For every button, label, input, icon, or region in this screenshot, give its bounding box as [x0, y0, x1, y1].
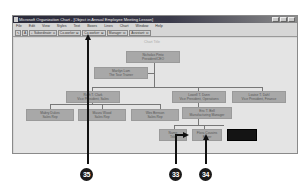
callout-badge-35: 35	[80, 168, 93, 181]
org-box-selected-empty[interactable]	[227, 129, 257, 141]
org-box-assistant[interactable]: Marilyn LamThe Tour Trainer	[94, 67, 148, 79]
org-box-vp-finance[interactable]: Louise T. DahlVice President, Finance	[232, 91, 286, 103]
text-a-icon: A	[24, 31, 26, 35]
app-icon[interactable]	[14, 17, 18, 22]
close-button[interactable]	[288, 17, 295, 22]
subordinate-button[interactable]: ⌕ Subordinate: ⊡	[29, 30, 57, 36]
callout-arrow-35	[87, 38, 89, 164]
select-tool-button[interactable]: ↖	[15, 30, 21, 36]
chart-canvas[interactable]: Chart Title Nicholas PintoPresident/CEO …	[14, 38, 297, 153]
callout-badge-33: 33	[169, 168, 182, 181]
arrowhead-icon	[183, 132, 189, 138]
callout-badge-34: 34	[199, 168, 212, 181]
toolbar: ↖ A ⌕ Subordinate: ⊡ Co-worker: ⊟ Co-wor…	[13, 29, 297, 37]
coworker-left-button[interactable]: Co-worker: ⊟	[58, 30, 81, 36]
manager-button[interactable]: Manager: ⊡	[107, 30, 128, 36]
arrowhead-icon	[203, 134, 209, 140]
org-box-manufacturing-manager[interactable]: Eric T. BellManufacturing Manager	[182, 107, 232, 119]
connector-line	[50, 104, 160, 105]
magnifier-icon: ⌕	[31, 31, 33, 35]
org-box-president[interactable]: Nicholas PintoPresident/CEO	[126, 51, 180, 63]
org-box-vp-operations[interactable]: Lowell T. DunnVice President, Operations	[172, 91, 226, 103]
assistant-button[interactable]: Assistant: ⊡	[129, 30, 151, 36]
callout-arrow-34	[205, 138, 207, 164]
text-tool-button[interactable]: A	[22, 30, 28, 36]
callout-arrow-33	[175, 135, 177, 164]
connector-line	[174, 125, 224, 126]
arrow-pointer-icon: ↖	[17, 31, 20, 35]
chart-title[interactable]: Chart Title	[144, 40, 160, 44]
connector-line	[92, 87, 262, 88]
minimize-button[interactable]	[272, 17, 279, 22]
connector-line	[154, 59, 155, 87]
org-box-sales-rep-2[interactable]: Maura WoodSales Rep	[78, 109, 126, 121]
maximize-button[interactable]	[280, 17, 287, 22]
org-box-sales-rep-1[interactable]: Mabry DukesSales Rep	[26, 109, 74, 121]
org-box-sales-rep-3[interactable]: Wes BensonSales Rep	[131, 109, 179, 121]
org-box-vp-sales[interactable]: Ruth T. ClarkVice President, Sales	[66, 91, 120, 103]
title-bar: Microsoft Organization Chart - [Object i…	[13, 16, 297, 23]
connector-line	[198, 118, 199, 125]
org-chart-window: Microsoft Organization Chart - [Object i…	[12, 15, 298, 154]
window-title: Microsoft Organization Chart - [Object i…	[19, 17, 153, 22]
arrowhead-icon	[85, 34, 91, 40]
